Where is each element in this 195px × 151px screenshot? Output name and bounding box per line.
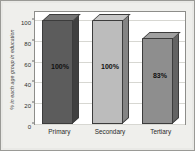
bar-value-label: 100%: [85, 63, 135, 70]
y-axis-tick-label: 20: [14, 103, 31, 109]
gridline: [35, 124, 185, 125]
y-axis-tick-label: 0: [14, 124, 31, 130]
y-axis-tick-mark: [32, 60, 34, 61]
bar-value-label: 100%: [35, 63, 85, 70]
y-axis-tick-label: 100: [14, 20, 31, 26]
plot-inner: 100%100%83%: [35, 12, 185, 124]
bar-front-face: [42, 20, 73, 124]
bar-chart: % in each age group in education 0204060…: [0, 0, 195, 151]
bar-front-face: [92, 20, 123, 124]
y-axis-tick-mark: [32, 81, 34, 82]
x-axis-tick-labels: PrimarySecondaryTertiary: [34, 129, 186, 141]
plot-area: 100%100%83%: [34, 11, 186, 125]
y-axis-tick-labels: 020406080100: [14, 15, 31, 125]
x-axis-tick-label: Primary: [34, 129, 85, 141]
y-axis-tick-mark: [32, 102, 34, 103]
y-axis-tick-label: 80: [14, 41, 31, 47]
bar-value-label: 83%: [135, 72, 185, 79]
y-axis-tick-label: 40: [14, 82, 31, 88]
bar-group: 100%: [35, 10, 85, 124]
x-axis-tick-label: Secondary: [85, 129, 136, 141]
y-axis-tick-mark: [32, 19, 34, 20]
x-axis-tick-label: Tertiary: [135, 129, 186, 141]
y-axis-tick-mark: [32, 123, 34, 124]
bar-group: 83%: [135, 10, 185, 124]
bar-group: 100%: [85, 10, 135, 124]
y-axis-tick-label: 60: [14, 62, 31, 68]
bar-front-face: [142, 38, 173, 124]
y-axis-tick-mark: [32, 39, 34, 40]
